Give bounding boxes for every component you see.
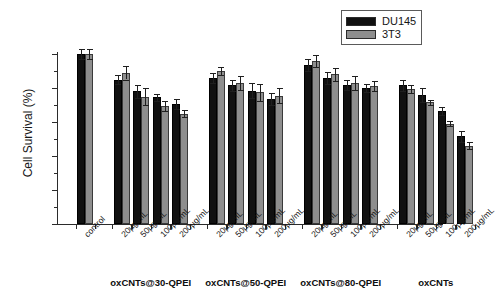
bar-du145 xyxy=(418,95,426,224)
error-bar-cap xyxy=(408,85,414,86)
error-bar-cap xyxy=(447,126,453,127)
bar-3t3 xyxy=(407,89,415,224)
error-bar-cap xyxy=(230,80,236,81)
error-bar xyxy=(374,81,375,91)
error-bar xyxy=(308,59,309,71)
error-bar-cap xyxy=(269,105,275,106)
bar-du145 xyxy=(323,78,331,224)
error-bar-cap xyxy=(305,59,311,60)
error-bar-cap xyxy=(249,98,255,99)
error-bar-cap xyxy=(344,80,350,81)
error-bar xyxy=(260,84,261,101)
error-bar-cap xyxy=(115,84,121,85)
error-bar xyxy=(176,99,177,109)
error-bar xyxy=(145,88,146,105)
error-bar-cap xyxy=(238,76,244,77)
error-bar-cap xyxy=(439,115,445,116)
bar-du145 xyxy=(248,91,256,224)
bar-du145 xyxy=(304,65,312,224)
bar-du145 xyxy=(172,104,180,224)
error-bar-cap xyxy=(154,101,160,102)
error-bar xyxy=(442,107,443,116)
error-bar-cap xyxy=(277,103,283,104)
bar-du145 xyxy=(228,85,236,224)
error-bar-cap xyxy=(174,109,180,110)
bar-3t3 xyxy=(331,74,339,224)
error-bar-cap xyxy=(257,101,263,102)
bar-3t3 xyxy=(122,73,130,224)
error-bar xyxy=(126,66,127,80)
error-bar-cap xyxy=(447,121,453,122)
error-bar-cap xyxy=(305,71,311,72)
error-bar-cap xyxy=(408,93,414,94)
y-axis-title: Cell Survival (%) xyxy=(21,58,35,208)
error-bar xyxy=(232,80,233,92)
bar-du145 xyxy=(153,97,161,224)
error-bar xyxy=(81,49,82,59)
error-bar-cap xyxy=(182,110,188,111)
y-tick-minor xyxy=(54,139,57,140)
error-bar xyxy=(279,88,280,103)
y-tick-major xyxy=(52,156,57,157)
error-bar-cap xyxy=(313,55,319,56)
error-bar xyxy=(335,68,336,82)
x-tick xyxy=(76,225,77,229)
error-bar-cap xyxy=(154,94,160,95)
bar-3t3 xyxy=(85,54,93,224)
error-bar-cap xyxy=(364,84,370,85)
bar-du145 xyxy=(267,99,275,224)
bar-3t3 xyxy=(370,86,378,224)
error-bar-cap xyxy=(439,107,445,108)
error-bar-cap xyxy=(313,67,319,68)
y-tick-major xyxy=(52,88,57,89)
error-bar-cap xyxy=(87,59,93,60)
x-tick xyxy=(397,225,398,229)
error-bar-cap xyxy=(428,105,434,106)
error-bar xyxy=(252,83,253,98)
error-bar-cap xyxy=(459,142,465,143)
error-bar-cap xyxy=(257,84,263,85)
y-tick-minor xyxy=(54,173,57,174)
x-group-label: oxCNTs@50-QPEI xyxy=(201,277,291,288)
error-bar-cap xyxy=(123,66,129,67)
error-bar-cap xyxy=(325,84,331,85)
error-bar-cap xyxy=(277,88,283,89)
error-bar xyxy=(137,85,138,99)
bar-du145 xyxy=(209,78,217,224)
error-bar xyxy=(316,55,317,67)
error-bar-cap xyxy=(218,75,224,76)
error-bar-cap xyxy=(218,67,224,68)
x-tick xyxy=(302,225,303,229)
y-tick-minor xyxy=(54,71,57,72)
error-bar-cap xyxy=(115,75,121,76)
error-bar-cap xyxy=(400,91,406,92)
bar-3t3 xyxy=(161,106,169,224)
bar-3t3 xyxy=(217,71,225,224)
error-bar xyxy=(469,142,470,149)
plot-area: 020406080100 xyxy=(57,52,443,225)
error-bar xyxy=(89,49,90,59)
bar-du145 xyxy=(133,91,141,224)
legend-item-du145: DU145 xyxy=(346,15,416,27)
error-bar-cap xyxy=(269,93,275,94)
error-bar-cap xyxy=(420,88,426,89)
y-tick-minor xyxy=(54,105,57,106)
error-bar-cap xyxy=(467,149,473,150)
error-bar-cap xyxy=(372,81,378,82)
error-bar-cap xyxy=(162,111,168,112)
error-bar-cap xyxy=(372,91,378,92)
error-bar-cap xyxy=(467,142,473,143)
error-bar-cap xyxy=(135,85,141,86)
error-bar-cap xyxy=(123,80,129,81)
error-bar xyxy=(271,93,272,105)
error-bar xyxy=(411,85,412,94)
y-axis-line xyxy=(57,52,58,225)
legend-item-3t3: 3T3 xyxy=(346,28,416,40)
error-bar xyxy=(240,76,241,90)
error-bar-cap xyxy=(333,81,339,82)
error-bar-cap xyxy=(344,90,350,91)
error-bar-cap xyxy=(182,117,188,118)
bar-3t3 xyxy=(256,92,264,224)
bar-3t3 xyxy=(236,83,244,224)
error-bar-cap xyxy=(230,91,236,92)
